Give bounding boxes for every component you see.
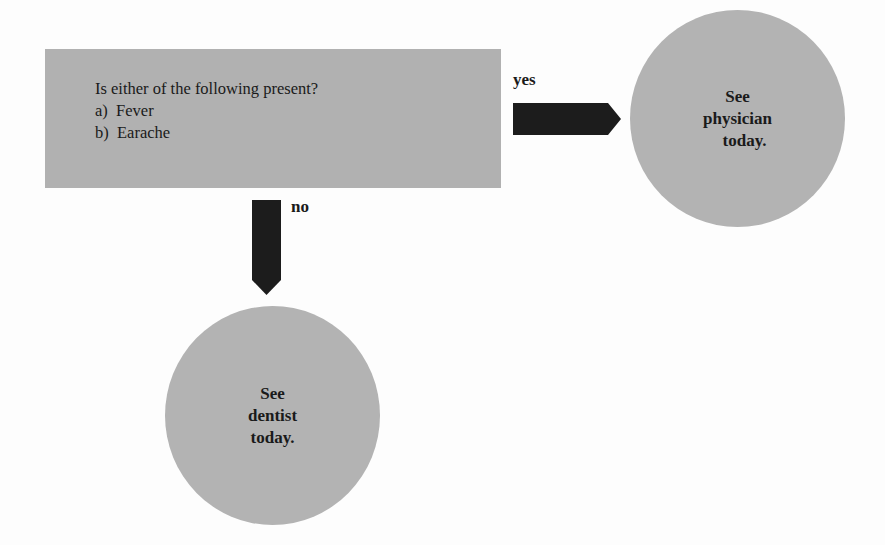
option-earache: b) Earache	[95, 122, 318, 144]
outcome-physician-line-3: today.	[703, 130, 772, 152]
decision-box: Is either of the following present? a) F…	[45, 49, 501, 188]
outcome-physician-line-2: physician	[703, 108, 772, 130]
outcome-dentist-line-2: dentist	[248, 405, 297, 427]
no-label: no	[291, 197, 309, 217]
option-fever: a) Fever	[95, 100, 318, 122]
yes-label: yes	[513, 70, 536, 90]
outcome-dentist-line-3: today.	[248, 427, 297, 449]
no-arrow-icon	[252, 200, 282, 296]
decision-text: Is either of the following present? a) F…	[95, 78, 318, 144]
decision-question: Is either of the following present?	[95, 78, 318, 100]
outcome-physician-line-1: See	[703, 86, 772, 108]
outcome-dentist-line-1: See	[248, 383, 297, 405]
outcome-physician: See physician today.	[630, 10, 845, 227]
outcome-dentist: See dentist today.	[165, 306, 380, 525]
yes-arrow-icon	[513, 103, 623, 135]
